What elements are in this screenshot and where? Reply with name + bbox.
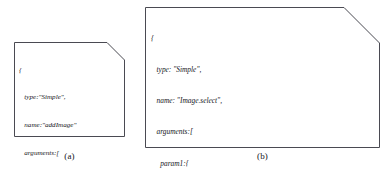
figure-canvas: { type:"Simple", name:"addImage" argumen… xyxy=(0,0,387,179)
note-box-a: { type:"Simple", name:"addImage" argumen… xyxy=(14,42,125,137)
code-line: { xyxy=(151,34,380,44)
code-line: type:"Simple", xyxy=(19,93,125,102)
panel-caption-b: (b) xyxy=(145,151,380,161)
code-block-b: { type: "Simple", name: "Image.select", … xyxy=(145,7,380,148)
code-line: param1:imageA, xyxy=(19,177,125,179)
code-block-a: { type:"Simple", name:"addImage" argumen… xyxy=(14,42,125,137)
code-line: arguments:[ xyxy=(151,127,380,137)
code-line: name:"addImage" xyxy=(19,121,125,130)
code-line: type: "Simple", xyxy=(151,65,380,75)
code-line: { xyxy=(19,66,125,75)
note-box-b: { type: "Simple", name: "Image.select", … xyxy=(145,7,380,148)
code-line: name: "Image.select", xyxy=(151,96,380,106)
panel-caption-a: (a) xyxy=(14,151,125,161)
